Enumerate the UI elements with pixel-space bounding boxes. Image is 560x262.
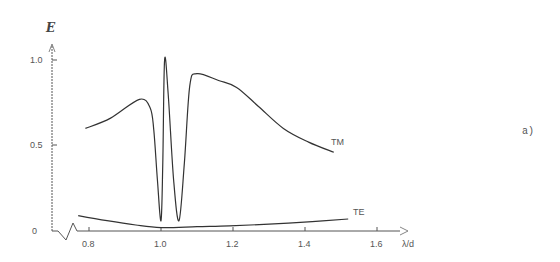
xtick-label-1.0: 1.0 xyxy=(154,239,167,249)
ytick-label-0.5: 0.5 xyxy=(30,140,43,150)
chart: E 1.0 0.5 0 0.8 1.0 1.2 1.4 1.6 λ/d TM T… xyxy=(0,0,560,262)
xtick-label-1.4: 1.4 xyxy=(298,239,311,249)
y-axis-label: E xyxy=(45,21,56,35)
ytick-label-1.0: 1.0 xyxy=(30,55,43,65)
tm-series-label: TM xyxy=(331,137,344,147)
x-axis-label: λ/d xyxy=(402,239,414,249)
te-curve xyxy=(78,216,348,228)
xtick-label-0.8: 0.8 xyxy=(82,239,95,249)
ytick-label-0: 0 xyxy=(32,226,37,236)
xtick-label-1.6: 1.6 xyxy=(370,239,383,249)
te-series-label: TE xyxy=(353,207,365,217)
xtick-label-1.2: 1.2 xyxy=(226,239,239,249)
panel-label: a) xyxy=(522,126,534,137)
tm-curve xyxy=(85,57,333,221)
x-axis-arrow-icon xyxy=(400,227,408,235)
